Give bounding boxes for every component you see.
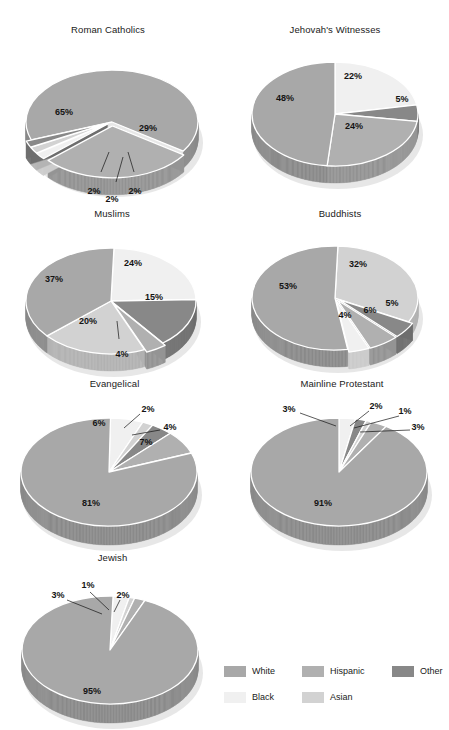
slice-label-asian: 1% bbox=[398, 406, 411, 416]
slice-label-hispanic: 6% bbox=[363, 305, 376, 315]
slice-label-asian: 20% bbox=[79, 316, 97, 326]
legend-row: BlackAsian bbox=[224, 684, 446, 710]
slice-label-hispanic: 24% bbox=[345, 121, 363, 131]
legend-swatch-asian-icon bbox=[302, 692, 324, 703]
pie-slice-white bbox=[251, 418, 427, 526]
pie-svg: 3%1%2%95% bbox=[10, 552, 215, 727]
slice-label-white: 53% bbox=[279, 281, 297, 291]
slice-label-white: 91% bbox=[314, 498, 332, 508]
pie-chart-mainline-protestant: Mainline Protestant3%2%1%3%91% bbox=[242, 378, 442, 553]
pie-svg: 32%5%6%4%53% bbox=[240, 208, 440, 388]
legend-label: Hispanic bbox=[330, 666, 365, 676]
legend-row: WhiteHispanicOther bbox=[224, 658, 446, 684]
legend-item-other[interactable]: Other bbox=[392, 658, 443, 684]
slice-label-black: 6% bbox=[92, 418, 105, 428]
pie-chart-jewish: Jewish3%1%2%95% bbox=[10, 552, 215, 727]
slice-label-asian: 32% bbox=[349, 259, 367, 269]
slice-label-white: 81% bbox=[82, 498, 100, 508]
slice-label-white: 95% bbox=[83, 686, 101, 696]
slice-label-other: 2% bbox=[369, 401, 382, 411]
legend-item-asian[interactable]: Asian bbox=[302, 684, 392, 710]
slice-label-hispanic: 3% bbox=[411, 422, 424, 432]
legend-item-black[interactable]: Black bbox=[224, 684, 302, 710]
slice-label-other: 2% bbox=[128, 186, 141, 196]
legend-item-white[interactable]: White bbox=[224, 658, 302, 684]
legend-swatch-black-icon bbox=[224, 692, 246, 703]
cropped-header-text bbox=[300, 0, 449, 4]
slice-label-hispanic: 2% bbox=[116, 590, 129, 600]
pie-chart-buddhists: Buddhists32%5%6%4%53% bbox=[240, 208, 440, 388]
pie-chart-evangelical: Evangelical6%2%4%7%81% bbox=[12, 378, 217, 553]
slice-label-white: 65% bbox=[55, 107, 73, 117]
slice-label-black: 3% bbox=[51, 590, 64, 600]
pie-svg: 24%15%4%20%37% bbox=[12, 208, 212, 388]
pie-slice-white bbox=[22, 596, 198, 704]
slice-label-white: 48% bbox=[276, 93, 294, 103]
pie-svg: 6%2%4%7%81% bbox=[12, 378, 217, 553]
slice-label-asian: 1% bbox=[81, 580, 94, 590]
slice-label-other: 4% bbox=[163, 422, 176, 432]
slice-label-black: 2% bbox=[87, 186, 100, 196]
legend-swatch-other-icon bbox=[392, 666, 414, 677]
pie-chart-muslims: Muslims24%15%4%20%37% bbox=[12, 208, 212, 388]
slice-label-black: 22% bbox=[344, 71, 362, 81]
slice-label-other: 5% bbox=[385, 298, 398, 308]
legend: WhiteHispanicOtherBlackAsian bbox=[224, 658, 446, 710]
slice-label-black: 3% bbox=[282, 404, 295, 414]
pie-svg: 3%2%1%3%91% bbox=[242, 378, 442, 553]
slice-label-other: 15% bbox=[145, 292, 163, 302]
legend-label: Black bbox=[252, 692, 274, 702]
legend-label: Other bbox=[420, 666, 443, 676]
legend-label: Asian bbox=[330, 692, 353, 702]
slice-label-hispanic: 4% bbox=[115, 349, 128, 359]
pie-svg: 65%29%2%2%2% bbox=[8, 24, 208, 204]
pie-svg: 22%5%24%48% bbox=[235, 24, 435, 204]
slice-label-black: 4% bbox=[338, 310, 351, 320]
chart-page: Roman Catholics65%29%2%2%2%Jehovah's Wit… bbox=[0, 0, 449, 730]
slice-label-white: 37% bbox=[45, 274, 63, 284]
slice-label-black: 24% bbox=[124, 258, 142, 268]
legend-swatch-white-icon bbox=[224, 666, 246, 677]
legend-label: White bbox=[252, 666, 275, 676]
slice-label-asian: 2% bbox=[105, 194, 118, 204]
legend-item-hispanic[interactable]: Hispanic bbox=[302, 658, 392, 684]
slice-label-hispanic: 7% bbox=[139, 437, 152, 447]
legend-swatch-hispanic-icon bbox=[302, 666, 324, 677]
pie-chart-jehovahs-witnesses: Jehovah's Witnesses22%5%24%48% bbox=[235, 24, 435, 204]
slice-label-asian: 2% bbox=[141, 404, 154, 414]
pie-chart-roman-catholics: Roman Catholics65%29%2%2%2% bbox=[8, 24, 208, 204]
slice-label-other: 5% bbox=[395, 94, 408, 104]
slice-label-hispanic: 29% bbox=[139, 123, 157, 133]
